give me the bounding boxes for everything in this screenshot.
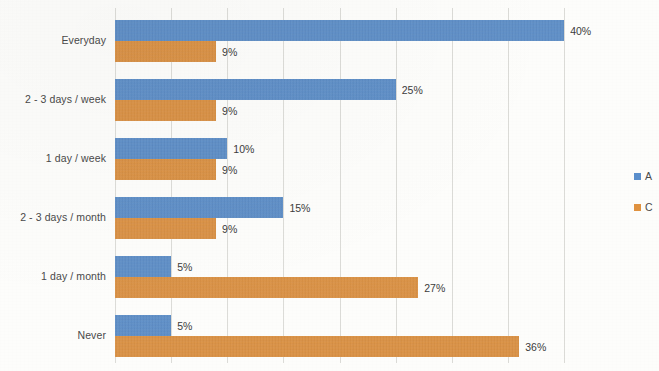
bar-value-label: 9% [222,164,237,176]
category-row: 2 - 3 days / month15%9% [115,197,620,239]
bar-texture [115,315,171,336]
bar-value-label: 25% [402,84,423,96]
bar-texture [115,20,564,41]
bar-c[interactable]: 9% [115,100,216,121]
bar-texture [115,218,216,239]
bar-c[interactable]: 9% [115,41,216,62]
bar-a[interactable]: 10% [115,138,227,159]
bar-value-label: 36% [525,341,546,353]
bar-texture [115,336,519,357]
category-axis-label: Never [77,329,106,341]
bar-texture [115,138,227,159]
bar-value-label: 9% [222,46,237,58]
legend-item-a[interactable]: A [634,170,659,182]
bar-a[interactable]: 15% [115,197,283,218]
bar-c[interactable]: 36% [115,336,519,357]
bar-value-label: 40% [570,25,591,37]
bar-texture [115,41,216,62]
category-axis-label: Everyday [61,34,106,46]
bar-c[interactable]: 27% [115,277,418,298]
bar-a[interactable]: 5% [115,315,171,336]
category-row: 1 day / month5%27% [115,256,620,298]
legend-swatch [634,173,641,180]
bar-texture [115,197,283,218]
category-row: Never5%36% [115,315,620,357]
bar-a[interactable]: 25% [115,79,396,100]
category-axis-label: 2 - 3 days / month [20,211,106,223]
legend-swatch [634,204,641,211]
legend-item-c[interactable]: C [634,201,659,213]
category-axis-label: 2 - 3 days / week [25,93,106,105]
bar-texture [115,79,396,100]
bar-value-label: 9% [222,105,237,117]
category-row: 2 - 3 days / week25%9% [115,79,620,121]
bar-value-label: 9% [222,223,237,235]
bar-chart: Everyday40%9%2 - 3 days / week25%9%1 day… [0,0,659,371]
bar-value-label: 27% [424,282,445,294]
bar-value-label: 5% [177,261,192,273]
bar-texture [115,159,216,180]
bar-texture [115,256,171,277]
chart-legend: AC [634,170,659,232]
bar-texture [115,100,216,121]
category-row: Everyday40%9% [115,20,620,62]
bar-value-label: 5% [177,320,192,332]
bar-value-label: 10% [233,143,254,155]
bar-value-label: 15% [289,202,310,214]
category-axis-label: 1 day / week [46,152,106,164]
bar-a[interactable]: 40% [115,20,564,41]
bar-texture [115,277,418,298]
category-row: 1 day / week10%9% [115,138,620,180]
legend-label: C [645,201,653,213]
plot-area: Everyday40%9%2 - 3 days / week25%9%1 day… [115,8,620,363]
legend-label: A [645,170,652,182]
bar-a[interactable]: 5% [115,256,171,277]
bar-c[interactable]: 9% [115,159,216,180]
category-axis-label: 1 day / month [41,270,106,282]
bar-c[interactable]: 9% [115,218,216,239]
